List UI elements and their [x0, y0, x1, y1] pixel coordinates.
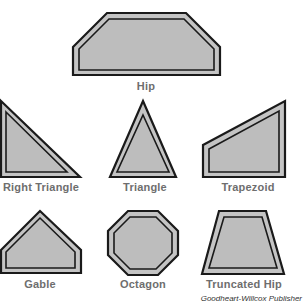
truncated-hip-label: Truncated Hip: [206, 278, 282, 290]
publisher-credit: Goodheart-Willcox Publisher: [201, 294, 302, 303]
gable-shape: [1, 211, 81, 273]
right-triangle-shape: [1, 101, 80, 177]
trapezoid-shape: [203, 101, 285, 177]
triangle-shape: [110, 101, 176, 177]
octagon-shape: [108, 211, 178, 275]
hip-shape: [73, 13, 220, 75]
octagon-label: Octagon: [120, 278, 166, 290]
right-triangle-label: Right Triangle: [3, 181, 79, 193]
triangle-label: Triangle: [123, 181, 167, 193]
roof-shapes-diagram: [0, 0, 305, 304]
truncated-hip-shape: [202, 211, 284, 274]
gable-label: Gable: [24, 278, 56, 290]
trapezoid-label: Trapezoid: [221, 181, 274, 193]
hip-label: Hip: [137, 80, 155, 92]
